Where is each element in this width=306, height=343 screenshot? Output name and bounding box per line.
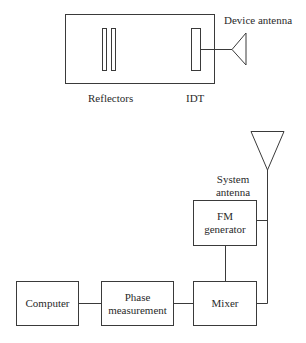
phase-measurement-label-line1: Phase <box>125 291 151 304</box>
idt-label: IDT <box>186 92 204 105</box>
system-antenna-label-line2: antenna <box>216 186 250 199</box>
mixer-label: Mixer <box>194 282 256 325</box>
phase-measurement-label-line2: measurement <box>108 304 167 317</box>
system-antenna-icon <box>251 132 284 171</box>
device-antenna-label: Device antenna <box>224 14 292 27</box>
fm-generator-label: FM generator <box>194 201 256 245</box>
phase-measurement-label: Phase measurement <box>102 282 173 325</box>
fm-generator-label-line2: generator <box>204 223 246 236</box>
computer-label-text: Computer <box>26 297 70 310</box>
saw-device-substrate <box>66 15 215 84</box>
device-antenna-icon <box>232 33 246 65</box>
reflectors-label: Reflectors <box>88 92 133 105</box>
reflector-bar-2 <box>112 29 116 71</box>
computer-label: Computer <box>17 282 78 325</box>
fm-generator-label-line1: FM <box>217 210 233 223</box>
reflector-bar-1 <box>103 29 107 71</box>
mixer-label-text: Mixer <box>212 297 239 310</box>
system-antenna-label-line1: System <box>217 173 249 186</box>
system-antenna-label: System antenna <box>205 172 261 200</box>
idt-element <box>192 29 201 71</box>
